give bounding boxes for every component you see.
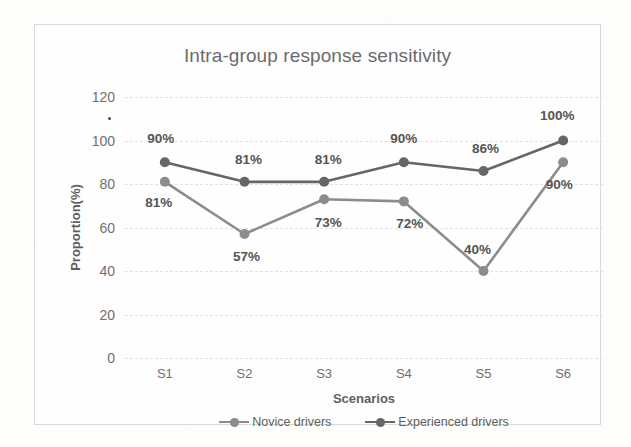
x-tick-label: S1 bbox=[157, 366, 173, 381]
x-tick-label: S5 bbox=[476, 366, 492, 381]
data-label: 86% bbox=[472, 140, 499, 155]
x-tick-label: S4 bbox=[396, 366, 412, 381]
data-label: 81% bbox=[145, 194, 172, 209]
series-marker bbox=[479, 266, 489, 276]
scan-artifact-dot bbox=[108, 117, 111, 120]
y-tick-label: 60 bbox=[73, 220, 115, 236]
data-label: 90% bbox=[147, 131, 174, 146]
data-label: 81% bbox=[315, 151, 342, 166]
gridline bbox=[125, 358, 603, 359]
data-label: 40% bbox=[464, 242, 491, 257]
series-marker bbox=[319, 177, 329, 187]
chart-frame: Intra-group response sensitivity Proport… bbox=[34, 24, 601, 425]
y-tick-label: 120 bbox=[73, 89, 115, 105]
legend-label: Experienced drivers bbox=[398, 415, 508, 429]
y-tick-label: 100 bbox=[73, 133, 115, 149]
legend-marker-icon bbox=[365, 417, 395, 427]
legend-entry[interactable]: Novice drivers bbox=[219, 415, 331, 429]
series-marker bbox=[240, 177, 250, 187]
series-marker bbox=[399, 196, 409, 206]
x-axis-title: Scenarios bbox=[125, 391, 603, 406]
y-tick-label: 0 bbox=[73, 350, 115, 366]
data-label: 100% bbox=[540, 107, 575, 122]
legend-marker-icon bbox=[219, 417, 249, 427]
series-marker bbox=[558, 157, 568, 167]
data-label: 81% bbox=[235, 151, 262, 166]
legend-entry[interactable]: Experienced drivers bbox=[365, 415, 508, 429]
data-label: 57% bbox=[233, 249, 260, 264]
data-label: 73% bbox=[315, 215, 342, 230]
data-label: 90% bbox=[546, 177, 573, 192]
series-marker bbox=[558, 136, 568, 146]
chart-title: Intra-group response sensitivity bbox=[35, 45, 600, 67]
y-tick-label: 20 bbox=[73, 307, 115, 323]
data-label: 90% bbox=[390, 131, 417, 146]
series-marker bbox=[399, 157, 409, 167]
x-tick-label: S3 bbox=[316, 366, 332, 381]
legend-label: Novice drivers bbox=[252, 415, 331, 429]
series-line bbox=[165, 162, 563, 271]
series-marker bbox=[160, 157, 170, 167]
series-marker bbox=[479, 166, 489, 176]
x-tick-label: S6 bbox=[555, 366, 571, 381]
series-marker bbox=[240, 229, 250, 239]
plot-area: 020406080100120 81%57%73%72%40%90%90%81%… bbox=[125, 97, 603, 358]
series-marker bbox=[160, 177, 170, 187]
series-line bbox=[165, 141, 563, 182]
y-tick-label: 80 bbox=[73, 176, 115, 192]
data-label: 72% bbox=[396, 216, 423, 231]
x-tick-label: S2 bbox=[237, 366, 253, 381]
series-marker bbox=[319, 194, 329, 204]
series-lines bbox=[125, 97, 603, 358]
y-tick-label: 40 bbox=[73, 263, 115, 279]
chart-legend: Novice driversExperienced drivers bbox=[125, 415, 603, 429]
